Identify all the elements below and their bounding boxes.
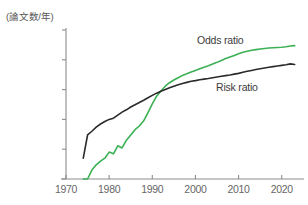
x-axis-tick-label: 1990 xyxy=(141,183,163,195)
x-axis-tick-label: 1980 xyxy=(98,183,120,195)
series-label-risk-ratio: Risk ratio xyxy=(216,81,258,93)
x-axis-tick-label: 2020 xyxy=(271,183,293,195)
chart-container: (論文数/年) 100,00010,0001,000100101 1970198… xyxy=(0,0,308,205)
x-axis-tick-label: 1970 xyxy=(55,183,77,195)
x-axis-tick-labels: 197019801990200020102020 xyxy=(0,0,308,205)
x-axis-tick-label: 2010 xyxy=(227,183,249,195)
x-axis-tick-label: 2000 xyxy=(184,183,206,195)
series-label-odds-ratio: Odds ratio xyxy=(197,34,243,46)
